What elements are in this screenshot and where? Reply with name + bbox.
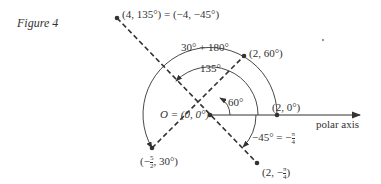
label-point-2-0: (2, 0°) <box>272 101 300 113</box>
label-arc-inner: 135° <box>200 62 221 74</box>
label-point-4-135: (4, 135°) = (−4, −45°) <box>122 8 219 20</box>
label-polar-axis: polar axis <box>316 118 359 130</box>
label-arc-outer: 30° + 180° <box>181 41 229 53</box>
label-angle-60: 60° <box>228 96 243 108</box>
stray-dot <box>322 39 324 41</box>
point-2-60 <box>242 54 247 59</box>
point-2-neg45 <box>255 161 260 166</box>
dashed-line-135 <box>117 18 257 163</box>
point-2-0 <box>275 113 280 118</box>
label-point-2-neg-pi4: (2, −π4) <box>262 166 290 181</box>
label-neg45: −45° = −π4 <box>252 131 295 146</box>
point-neg52-30 <box>150 146 155 151</box>
point-4-135 <box>115 16 120 21</box>
fraction-pi-over-4: π4 <box>292 131 296 146</box>
figure-caption: Figure 4 <box>17 16 58 31</box>
label-point-neg52-30: (−52, 30°) <box>140 155 178 170</box>
label-point-2-60: (2, 60°) <box>249 47 283 59</box>
label-origin: O = (0, 0°) <box>160 108 209 120</box>
